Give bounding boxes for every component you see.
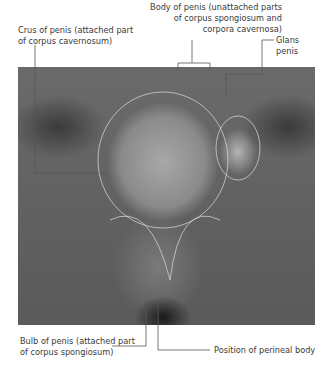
outline-strokes <box>98 92 260 280</box>
label-crus: Crus of penis (attached part of corpus c… <box>18 25 133 47</box>
label-perineal-body: Position of perineal body <box>214 345 315 356</box>
leader-lines <box>0 0 322 366</box>
label-glans: Glans penis <box>276 35 322 57</box>
label-bulb: Bulb of penis (attached part of corpus s… <box>20 336 135 358</box>
label-body: Body of penis (unattached parts of corpu… <box>120 2 282 35</box>
